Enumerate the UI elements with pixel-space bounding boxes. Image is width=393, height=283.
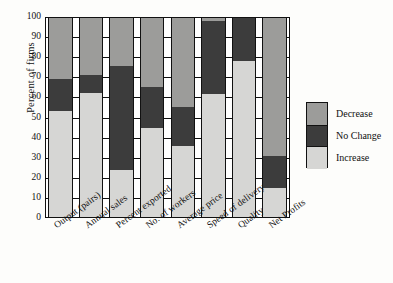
legend-swatch [307,147,327,169]
bar-segment-no-change[interactable] [140,87,165,127]
bar-segment-decrease[interactable] [171,17,196,107]
legend-swatch [307,103,327,125]
bar-column[interactable] [79,17,104,218]
bar-segment-no-change[interactable] [48,79,73,111]
chart-figure: Percent of firms 1009080706050403020100 … [0,0,393,283]
bar-segment-no-change[interactable] [109,66,134,170]
bar-segment-decrease[interactable] [262,17,287,156]
bar-column[interactable] [48,17,73,218]
bar-segment-no-change[interactable] [232,17,257,61]
bar-segment-increase[interactable] [48,111,73,218]
bar-segment-decrease[interactable] [109,17,134,66]
bar-segment-no-change[interactable] [201,21,226,94]
bar-segment-no-change[interactable] [79,75,104,93]
bar-segment-decrease[interactable] [201,17,226,21]
bar-column[interactable] [201,17,226,218]
legend-swatch-stack [306,102,328,168]
legend-label: Decrease [336,109,373,119]
bar-series-group [0,0,393,283]
bar-segment-decrease[interactable] [140,17,165,87]
bar-segment-decrease[interactable] [48,17,73,79]
bar-column[interactable] [109,17,134,218]
bar-segment-no-change[interactable] [262,156,287,188]
bar-segment-decrease[interactable] [79,17,104,75]
legend-label: No Change [336,131,381,141]
bar-segment-no-change[interactable] [171,107,196,145]
legend-swatch [307,125,327,147]
legend-label: Increase [336,153,369,163]
